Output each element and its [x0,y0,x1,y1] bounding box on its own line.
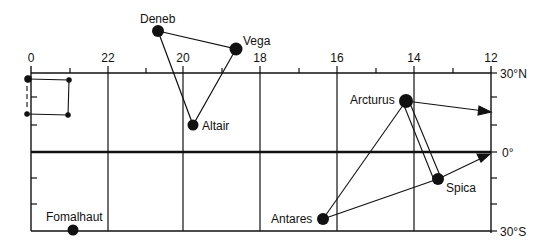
ra-label-22: 22 [101,51,115,65]
label-altair: Altair [202,119,229,133]
ra-label-18: 18 [253,51,267,65]
star-deneb [152,25,164,37]
star-vega [230,43,243,56]
dec-label-equator: 0° [502,146,514,160]
summer-triangle [158,31,236,125]
arrow-head-icon [477,154,490,162]
dec-label-30n: 30°N [500,67,527,81]
ra-labels: 0 22 20 18 16 14 12 [28,51,498,65]
star-spica [432,173,444,185]
ra-label-0: 0 [28,51,35,65]
dec-labels: 30°N 0° 30°S [500,67,527,239]
star-chart: 0 22 20 18 16 14 12 30°N 0° 30°S [0,0,558,246]
label-antares: Antares [271,212,312,226]
arcturus-arrow [406,101,484,111]
label-fomalhaut: Fomalhaut [46,210,103,224]
ra-label-12: 12 [484,51,498,65]
arrow-head-icon [478,106,491,115]
ra-label-20: 20 [176,51,190,65]
dec-label-30s: 30°S [500,225,526,239]
star-fomalhaut [68,225,79,236]
ra-label-16: 16 [330,51,344,65]
label-spica: Spica [446,181,476,195]
star-altair [188,120,199,131]
label-deneb: Deneb [140,12,176,26]
ra-label-14: 14 [407,51,421,65]
grid [31,66,497,233]
spring-triangle [323,101,441,219]
star-labels: Deneb Vega Altair Arcturus Spica Antares… [46,12,476,226]
spica-arrow [438,157,484,179]
label-arcturus: Arcturus [350,93,395,107]
arrows [406,101,491,179]
star-arcturus [399,94,413,108]
star-antares [317,213,329,225]
label-vega: Vega [243,34,271,48]
